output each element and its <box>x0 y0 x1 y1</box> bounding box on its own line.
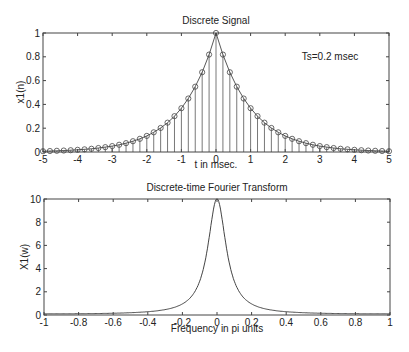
x-tick-label: -1 <box>177 154 186 165</box>
x-tick-label: 0.8 <box>348 317 362 328</box>
x-tick-label: -3 <box>108 154 117 165</box>
x-tick-label: 0.4 <box>279 317 293 328</box>
plot1-annotation: Ts=0.2 msec <box>302 51 358 62</box>
y-tick-label: 0.6 <box>26 75 40 86</box>
x-tick-label: 1 <box>248 154 254 165</box>
x-tick-label: 0.6 <box>314 317 328 328</box>
y-tick-label: 0.4 <box>26 99 40 110</box>
y-tick-label: 2 <box>35 286 41 297</box>
x-tick-label: 0.2 <box>245 317 259 328</box>
y-tick-label: 0.8 <box>26 51 40 62</box>
y-tick-label: 8 <box>35 217 41 228</box>
dtft-plot: Discrete-time Fourier Transform Frequenc… <box>19 182 393 334</box>
plot2-axes-box <box>44 199 390 315</box>
x-tick-label: 2 <box>282 154 288 165</box>
plot2-ylabel: X1(w) <box>19 244 30 270</box>
y-tick-label: 4 <box>35 263 41 274</box>
y-tick-label: 1 <box>34 28 40 39</box>
x-tick-label: -0.8 <box>70 317 88 328</box>
x-tick-label: -4 <box>73 154 82 165</box>
x-tick-label: 0 <box>213 154 219 165</box>
x-tick-label: -0.4 <box>139 317 157 328</box>
dtft-line <box>44 199 390 314</box>
x-tick-label: 1 <box>387 317 393 328</box>
x-tick-label: 5 <box>386 154 392 165</box>
y-tick-label: 0.2 <box>26 123 40 134</box>
figure: Discrete Signal Ts=0.2 msec t in msec. x… <box>0 0 409 352</box>
discrete-signal-plot: Discrete Signal Ts=0.2 msec t in msec. x… <box>15 15 392 170</box>
plot1-stems <box>40 30 391 153</box>
plot2-ticks: -1-0.8-0.6-0.4-0.200.20.40.60.810246810 <box>30 194 393 329</box>
y-tick-label: 10 <box>30 194 42 205</box>
plot1-title: Discrete Signal <box>182 15 249 26</box>
y-tick-label: 0 <box>34 147 40 158</box>
x-tick-label: 4 <box>352 154 358 165</box>
x-tick-label: -2 <box>142 154 151 165</box>
y-tick-label: 6 <box>35 240 41 251</box>
x-tick-label: -0.2 <box>174 317 192 328</box>
plot2-title: Discrete-time Fourier Transform <box>146 182 287 193</box>
plot2-curve <box>44 199 390 314</box>
y-tick-label: 0 <box>35 310 41 321</box>
x-tick-label: 3 <box>317 154 323 165</box>
x-tick-label: -0.6 <box>105 317 123 328</box>
x-tick-label: 0 <box>214 317 220 328</box>
plot1-ylabel: x1(n) <box>15 81 26 104</box>
